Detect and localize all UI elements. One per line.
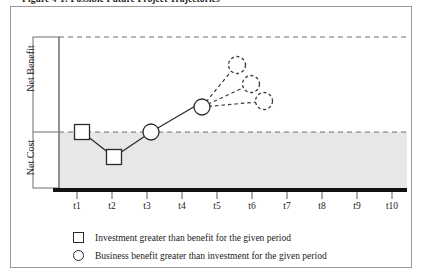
figure-frame: Net Benefit Net Cost t1 t2 t3 t4 t5 t6 t… [10,6,412,268]
legend-label-benefit: Business benefit greater than investment… [95,251,327,261]
legend-square-icon [73,232,84,243]
tick-label-t4: t4 [168,201,196,211]
net-benefit-axis-label: Net Benefit [25,30,36,108]
projection-endpoint-mid-marker [243,76,260,93]
chart-canvas [11,7,413,269]
tick-label-t2: t2 [98,201,126,211]
data-point-t4-circle [194,99,210,115]
tick-label-t7: t7 [273,201,301,211]
axis-label-box [33,37,59,188]
projection-endpoint-high-marker [229,57,246,74]
x-axis-ticks [77,192,392,199]
chart-plot-area: Net Benefit Net Cost t1 t2 t3 t4 t5 t6 t… [11,7,413,269]
legend-item-benefit: Business benefit greater than investment… [73,250,327,261]
tick-label-t6: t6 [238,201,266,211]
data-point-t2-square [107,150,122,165]
tick-label-t1: t1 [63,201,91,211]
projection-endpoint-low-marker [256,93,273,110]
tick-label-t5: t5 [203,201,231,211]
data-point-t1-square [75,125,90,140]
legend-item-investment: Investment greater than benefit for the … [73,232,291,243]
tick-label-t8: t8 [308,201,336,211]
figure-title: Figure 4-1: Possible Future Project Traj… [22,0,220,4]
tick-label-t3: t3 [133,201,161,211]
legend-label-investment: Investment greater than benefit for the … [95,233,291,243]
legend-circle-icon [73,250,84,261]
net-cost-axis-label: Net Cost [25,135,36,181]
tick-label-t9: t9 [343,201,371,211]
tick-label-t10: t10 [376,201,408,211]
data-point-t3-circle [143,124,159,140]
